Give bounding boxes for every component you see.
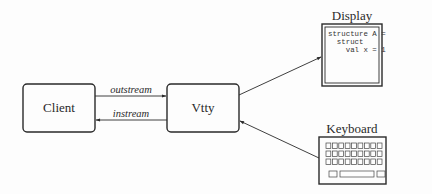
keyboard-keys xyxy=(326,143,382,165)
keyboard-key xyxy=(364,151,369,157)
instream-edge: instream xyxy=(96,108,167,120)
vtty-to-display-arrow xyxy=(239,57,321,95)
keyboard-key xyxy=(358,143,363,149)
keyboard-key xyxy=(377,159,382,165)
keyboard-key xyxy=(352,151,357,157)
keyboard-key xyxy=(371,143,376,149)
display-line-1: structure A = xyxy=(328,30,386,38)
architecture-diagram: Client Vtty outstream instream Display s… xyxy=(0,0,432,194)
keyboard-key xyxy=(326,159,331,165)
keyboard-key xyxy=(377,143,382,149)
vtty-label: Vtty xyxy=(191,100,215,115)
keyboard-key xyxy=(364,143,369,149)
outstream-label: outstream xyxy=(110,84,152,95)
display-line-3: val x = 1 xyxy=(328,46,386,54)
keyboard-key xyxy=(358,151,363,157)
keyboard-key xyxy=(326,151,331,157)
vtty-node: Vtty xyxy=(167,84,239,132)
outstream-edge: outstream xyxy=(95,84,166,96)
diagram-svg: Client Vtty outstream instream Display s… xyxy=(0,0,432,194)
keyboard-key xyxy=(377,151,382,157)
keyboard-key xyxy=(358,159,363,165)
display-node: Display structure A = struct val x = 1 xyxy=(322,8,386,86)
keyboard-right-key xyxy=(377,171,385,177)
keyboard-key xyxy=(371,159,376,165)
keyboard-key xyxy=(332,151,337,157)
display-line-2: struct xyxy=(328,38,363,46)
keyboard-key xyxy=(345,159,350,165)
keyboard-key xyxy=(332,143,337,149)
keyboard-key xyxy=(332,159,337,165)
keyboard-node: Keyboard xyxy=(319,121,386,184)
keyboard-key xyxy=(345,151,350,157)
keyboard-key xyxy=(352,143,357,149)
keyboard-key xyxy=(326,143,331,149)
keyboard-key xyxy=(364,159,369,165)
keyboard-to-vtty-arrow xyxy=(240,121,319,158)
keyboard-key xyxy=(339,151,344,157)
keyboard-key xyxy=(339,143,344,149)
client-node: Client xyxy=(23,84,95,132)
keyboard-key xyxy=(371,151,376,157)
keyboard-key xyxy=(352,159,357,165)
display-label: Display xyxy=(332,8,373,23)
keyboard-label: Keyboard xyxy=(326,121,378,136)
keyboard-key xyxy=(339,159,344,165)
keyboard-key xyxy=(345,143,350,149)
keyboard-spacebar xyxy=(340,171,374,177)
client-label: Client xyxy=(43,100,75,115)
instream-label: instream xyxy=(113,108,150,119)
keyboard-left-key xyxy=(329,171,337,177)
